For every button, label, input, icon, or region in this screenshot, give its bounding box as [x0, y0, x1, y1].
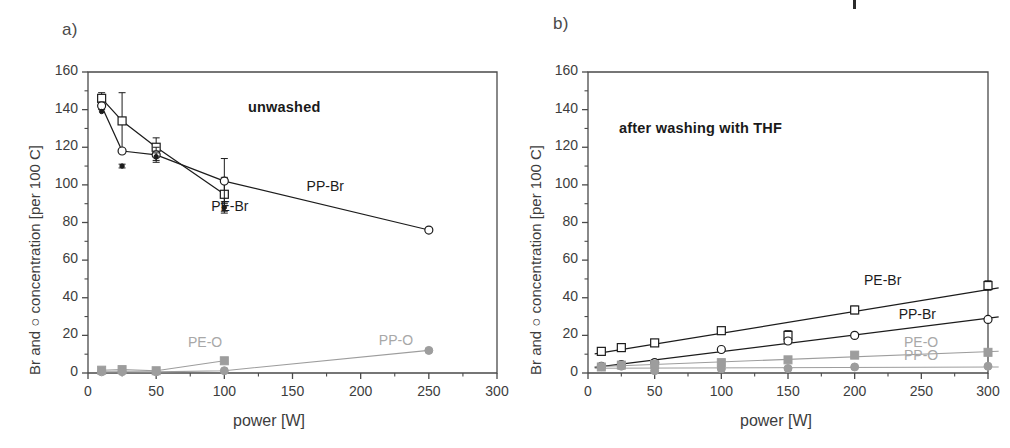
ytick-label: 40	[536, 288, 578, 304]
xtick-label: 100	[696, 383, 746, 399]
ytick-label: 140	[536, 100, 578, 116]
xtick-label: 50	[131, 383, 181, 399]
panel-a: a) unwashed power [W] Br and ○ concentra…	[0, 0, 505, 448]
xtick-label: 100	[199, 383, 249, 399]
series-label-pe-o: PE-O	[188, 334, 222, 350]
xtick-label: 200	[336, 383, 386, 399]
xtick-label: 200	[830, 383, 880, 399]
ytick-label: 0	[36, 363, 78, 379]
series-label-pe-br: PE-Br	[864, 272, 901, 288]
xtick-label: 250	[404, 383, 454, 399]
figure-root: a) unwashed power [W] Br and ○ concentra…	[0, 0, 1010, 448]
ytick-label: 40	[36, 288, 78, 304]
xtick-label: 150	[763, 383, 813, 399]
ytick-label: 0	[536, 363, 578, 379]
ytick-label: 100	[536, 175, 578, 191]
xtick-label: 300	[963, 383, 1010, 399]
ytick-label: 60	[536, 250, 578, 266]
ytick-label: 160	[536, 62, 578, 78]
ytick-label: 120	[536, 137, 578, 153]
xtick-label: 50	[630, 383, 680, 399]
panel-b: b) after washing with THF power [W] Br a…	[505, 0, 1010, 448]
ytick-label: 100	[36, 175, 78, 191]
panel-b-plot	[505, 0, 1010, 448]
ytick-label: 80	[536, 213, 578, 229]
series-label-pp-br: PP-Br	[899, 306, 936, 322]
xtick-label: 0	[63, 383, 113, 399]
xtick-label: 0	[563, 383, 613, 399]
ytick-label: 80	[36, 213, 78, 229]
ytick-label: 120	[36, 137, 78, 153]
xtick-label: 150	[268, 383, 318, 399]
xtick-label: 250	[896, 383, 946, 399]
ytick-label: 160	[36, 62, 78, 78]
ytick-label: 60	[36, 250, 78, 266]
ytick-label: 20	[36, 325, 78, 341]
ytick-label: 20	[536, 325, 578, 341]
series-label-pe-br: PE-Br	[211, 198, 248, 214]
ytick-label: 140	[36, 100, 78, 116]
series-label-pp-br: PP-Br	[307, 178, 344, 194]
series-label-pp-o: PP-O	[379, 332, 413, 348]
series-label-pp-o: PP-O	[904, 347, 938, 363]
